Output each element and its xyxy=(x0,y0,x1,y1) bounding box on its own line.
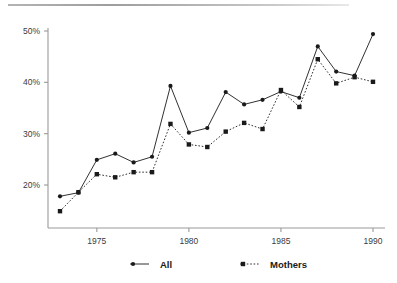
data-point-marker xyxy=(334,81,338,85)
data-point-marker xyxy=(132,160,136,164)
legend-marker-swatch xyxy=(241,262,245,266)
x-tick-label: 1980 xyxy=(179,236,198,246)
data-point-marker xyxy=(131,170,135,174)
data-point-marker xyxy=(279,88,283,92)
data-point-marker xyxy=(95,172,99,176)
y-tick-label: 20% xyxy=(23,180,40,190)
legend-label: All xyxy=(160,259,172,270)
series-mothers xyxy=(58,57,375,213)
series-all xyxy=(58,32,375,198)
data-point-marker xyxy=(371,32,375,36)
data-point-marker xyxy=(168,84,172,88)
data-point-marker xyxy=(224,90,228,94)
data-point-marker xyxy=(150,155,154,159)
data-point-marker xyxy=(205,126,209,130)
data-point-marker xyxy=(150,170,154,174)
y-tick-label: 40% xyxy=(23,77,40,87)
data-point-marker xyxy=(297,96,301,100)
data-point-marker xyxy=(58,194,62,198)
y-tick-label: 50% xyxy=(23,26,40,36)
x-tick-label: 1985 xyxy=(271,236,290,246)
chart-figure: 20%30%40%50% 1975198019851990 AllMothers xyxy=(0,0,397,283)
x-tick-label: 1975 xyxy=(87,236,106,246)
legend-marker-swatch xyxy=(131,262,135,266)
data-point-marker xyxy=(371,80,375,84)
data-point-marker xyxy=(113,175,117,179)
data-point-marker xyxy=(242,121,246,125)
series-line xyxy=(60,34,373,196)
series-line xyxy=(60,59,373,211)
legend-item-all[interactable]: All xyxy=(130,259,172,270)
data-point-marker xyxy=(205,145,209,149)
data-point-marker xyxy=(113,152,117,156)
data-point-marker xyxy=(334,69,338,73)
data-point-marker xyxy=(76,190,80,194)
data-point-marker xyxy=(316,44,320,48)
data-point-marker xyxy=(260,98,264,102)
y-axis-ticks: 20%30%40%50% xyxy=(23,26,48,190)
header-rule xyxy=(8,4,349,6)
data-point-marker xyxy=(224,129,228,133)
x-axis-ticks: 1975198019851990 xyxy=(87,228,382,246)
legend-label: Mothers xyxy=(270,259,307,270)
axis-layer xyxy=(48,28,385,228)
data-point-marker xyxy=(58,209,62,213)
legend-item-mothers[interactable]: Mothers xyxy=(240,259,307,270)
data-point-marker xyxy=(187,131,191,135)
line-chart: 20%30%40%50% 1975198019851990 AllMothers xyxy=(0,0,397,283)
data-point-marker xyxy=(297,105,301,109)
data-point-marker xyxy=(260,127,264,131)
data-point-marker xyxy=(187,142,191,146)
data-point-marker xyxy=(352,75,356,79)
data-point-marker xyxy=(242,102,246,106)
data-series-layer xyxy=(58,32,375,213)
data-point-marker xyxy=(95,158,99,162)
data-point-marker xyxy=(316,57,320,61)
y-tick-label: 30% xyxy=(23,129,40,139)
data-point-marker xyxy=(168,122,172,126)
chart-legend: AllMothers xyxy=(130,259,307,270)
x-tick-label: 1990 xyxy=(364,236,383,246)
